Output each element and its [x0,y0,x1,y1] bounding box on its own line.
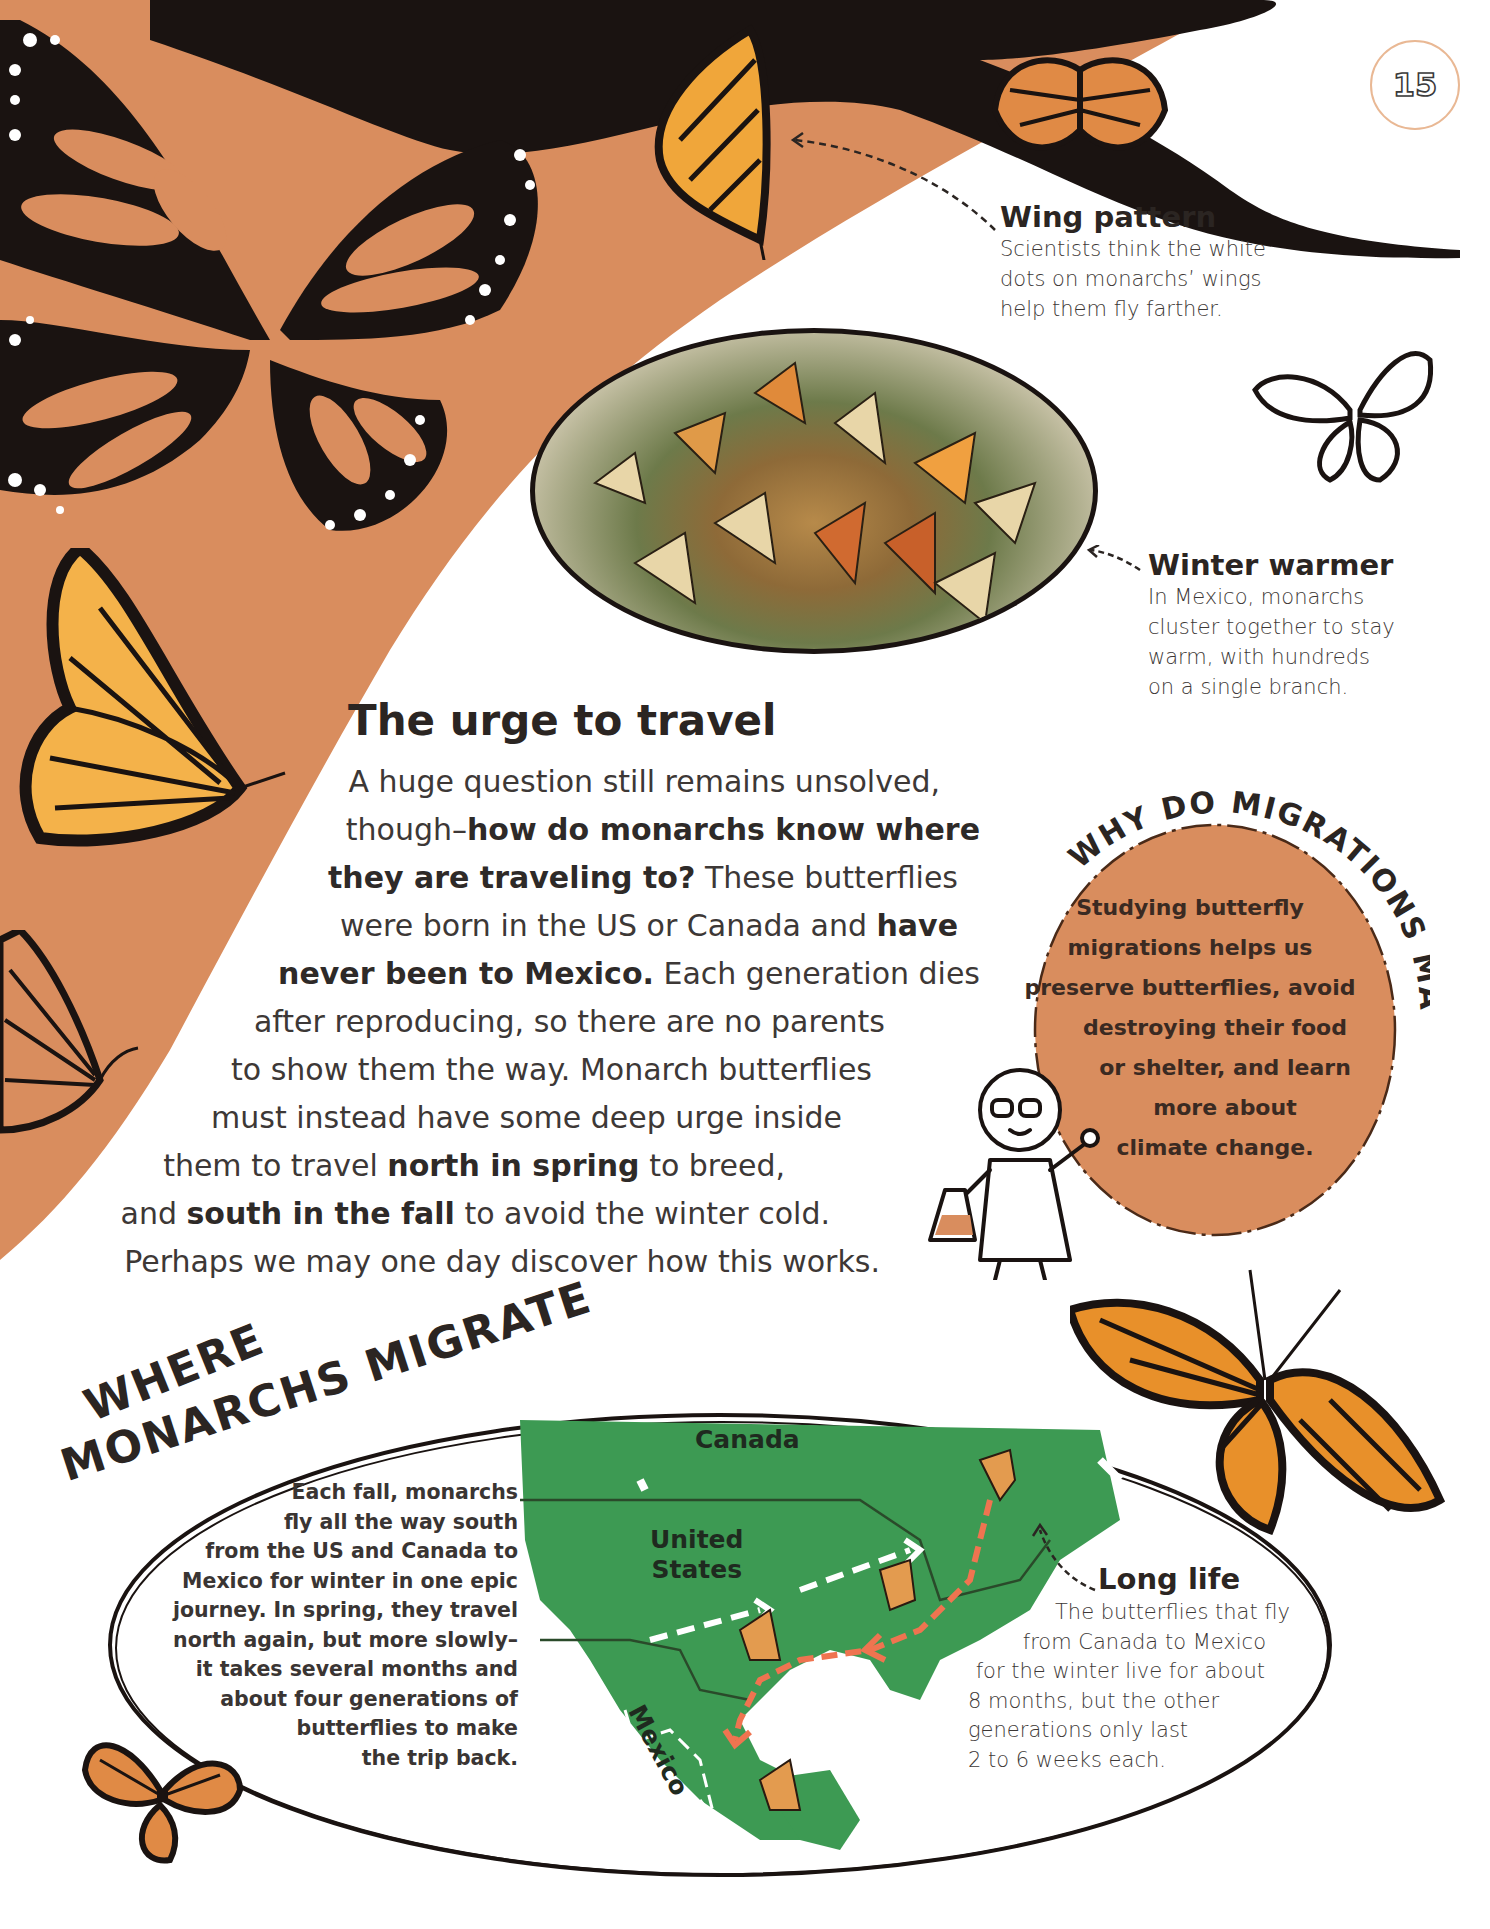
butterfly-outline-icon [1250,330,1440,490]
map-label-united-states: United States [650,1525,743,1585]
monarch-cluster-photo [530,328,1098,654]
caption-long-life-body: The butterflies that fly from Canada to … [950,1598,1290,1775]
butterfly-cluster-icon [535,333,1093,649]
caption-long-life-title: Long life [1098,1562,1240,1596]
monarch-bottom-left-icon [80,1720,250,1870]
monarch-top-right-icon [980,50,1180,180]
caption-title: Wing pattern [1000,200,1266,234]
dashed-pointer-winter [1085,545,1145,575]
scientist-icon [920,1060,1120,1280]
map-label-canada: Canada [695,1425,800,1455]
section-title-urge: The urge to travel [348,696,776,745]
caption-body: Scientists think the white dots on monar… [1000,234,1266,324]
caption-wing-pattern: Wing pattern Scientists think the white … [1000,200,1266,324]
caption-title: Winter warmer [1148,548,1395,582]
urge-paragraph: A huge question still remains unsolved, … [100,758,980,1286]
dashed-pointer-long-life [1030,1520,1100,1600]
caption-winter-warmer: Winter warmer In Mexico, monarchs cluste… [1148,548,1395,702]
monarch-perched-icon [640,20,800,260]
page-number-badge: 15 [1370,40,1460,130]
dashed-pointer-wing [785,130,1005,240]
monarch-silhouette-icon [0,20,580,540]
caption-body: In Mexico, monarchs cluster together to … [1148,582,1395,702]
